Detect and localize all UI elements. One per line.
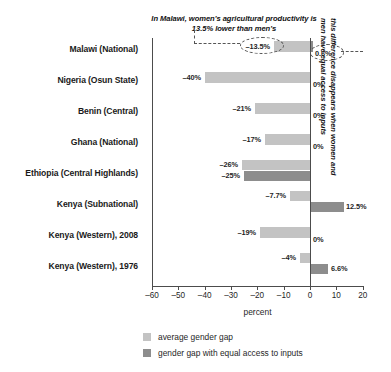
- bar-nigeria-average: [205, 72, 310, 83]
- legend-label-average: average gender gap: [158, 332, 233, 342]
- bar-ethiopia-average: [242, 160, 311, 170]
- y-label-malawi: Malawi (National): [0, 44, 138, 54]
- y-label-ethiopia: Ethiopia (Central Highlands): [0, 168, 138, 178]
- leader-line-right-callout: [341, 51, 363, 52]
- bar-label-ethiopia-average: –26%: [193, 160, 238, 170]
- highlight-ellipse-malawi-average: [240, 37, 284, 54]
- x-tick-minus40: [205, 286, 206, 290]
- x-tick-minus20: [257, 286, 258, 290]
- bar-kenya-1976-average: [300, 253, 311, 263]
- axis-zero-line: [310, 38, 311, 286]
- x-tick-20: [363, 286, 364, 290]
- legend-swatch-icon-equal-access: [143, 349, 151, 357]
- bar-label-kenya-sub-equal-access: 12.5%: [346, 202, 366, 212]
- bar-benin-average: [255, 103, 310, 114]
- x-tick-minus10: [284, 286, 285, 290]
- bar-kenya-1976-equal-access: [311, 264, 328, 274]
- x-tick-10: [336, 286, 337, 290]
- bar-kenya-sub-equal-access: [311, 202, 344, 212]
- y-label-nigeria: Nigeria (Osun State): [0, 75, 138, 85]
- bar-label-benin-average: –21%: [206, 103, 251, 114]
- legend-label-equal-access: gender gap with equal access to inputs: [158, 348, 303, 358]
- x-tick-minus60: [152, 286, 153, 290]
- bar-label-kenya-2008-average: –19%: [211, 227, 256, 238]
- bar-label-ghana-equal-access: 0%: [313, 141, 323, 152]
- bar-label-benin-equal-access: 0%: [313, 110, 323, 121]
- y-label-benin: Benin (Central): [0, 106, 138, 116]
- chart-legend: average gender gap gender gap with equal…: [143, 329, 391, 361]
- x-tick-minus50: [178, 286, 179, 290]
- leader-stem-top-callout: [194, 30, 195, 44]
- y-label-kenya-sub: Kenya (Subnational): [0, 199, 138, 209]
- legend-item-average-gender-gap: average gender gap: [143, 329, 391, 345]
- bar-kenya-sub-average: [290, 191, 310, 201]
- y-label-kenya-1976: Kenya (Western), 1976: [0, 261, 138, 271]
- plot-area: –13.5% 0.6% –40% 0% –21% 0% –17% 0% –26%…: [152, 38, 362, 286]
- bar-kenya-2008-average: [260, 227, 310, 238]
- bar-ethiopia-equal-access: [244, 171, 310, 181]
- bar-ghana-average: [265, 134, 310, 145]
- bar-label-ethiopia-equal-access: –25%: [195, 171, 240, 181]
- bar-label-kenya-1976-equal-access: 6.6%: [331, 264, 347, 274]
- bar-label-kenya-1976-average: –4%: [251, 253, 296, 263]
- x-axis-title: percent: [152, 307, 363, 317]
- bar-label-nigeria-average: –40%: [156, 72, 201, 83]
- bar-label-kenya-2008-equal-access: 0%: [313, 234, 323, 245]
- bar-label-nigeria-equal-access: 0%: [313, 79, 323, 90]
- legend-swatch-icon-average: [143, 333, 151, 341]
- bar-label-ghana-average: –17%: [216, 134, 261, 145]
- axis-left-spine: [152, 38, 153, 286]
- legend-item-equal-access: gender gap with equal access to inputs: [143, 345, 391, 361]
- x-tick-zero: [310, 286, 311, 290]
- bar-label-kenya-sub-average: –7.7%: [241, 191, 286, 201]
- gender-gap-bar-chart: In Malawi, women's agricultural producti…: [0, 0, 391, 372]
- y-label-ghana: Ghana (National): [0, 137, 138, 147]
- leader-line-top-callout: [194, 43, 240, 44]
- highlight-ellipse-malawi-equal-access: [310, 44, 344, 61]
- annotation-top-callout: In Malawi, women's agricultural producti…: [150, 14, 318, 34]
- y-axis-labels: Malawi (National) Nigeria (Osun State) B…: [0, 38, 146, 286]
- x-ticklabel-20: 20: [348, 291, 378, 300]
- x-tick-minus30: [231, 286, 232, 290]
- y-label-kenya-2008: Kenya (Western), 2008: [0, 230, 138, 240]
